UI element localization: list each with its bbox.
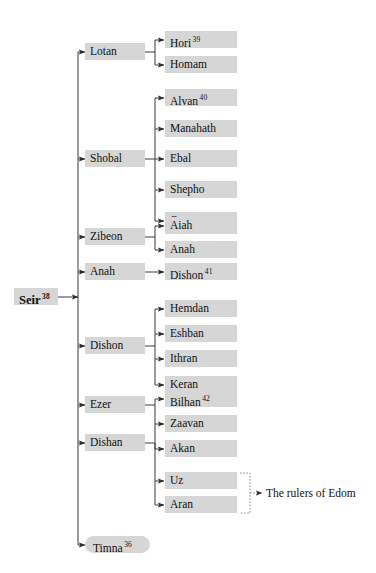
node-ebal[interactable]: Ebal bbox=[165, 150, 237, 167]
node-aran-label: Aran bbox=[170, 498, 193, 510]
node-shepho-label: Shepho bbox=[170, 183, 205, 195]
genealogy-diagram: Seir38 Lotan Shobal Zibeon Anah Dishon E… bbox=[0, 0, 376, 573]
node-zibeon[interactable]: Zibeon bbox=[85, 228, 145, 245]
node-hemdan[interactable]: Hemdan bbox=[165, 300, 237, 317]
node-ezer-label: Ezer bbox=[90, 398, 111, 410]
node-homam-label: Homam bbox=[170, 58, 207, 70]
node-dishan[interactable]: Dishan bbox=[85, 434, 145, 451]
node-akan-label: Akan bbox=[170, 442, 195, 454]
node-seir-label: Seir bbox=[19, 293, 41, 305]
node-dishon[interactable]: Dishon bbox=[85, 337, 145, 354]
node-aiah-label: Aiah bbox=[170, 219, 192, 231]
node-uz[interactable]: Uz bbox=[165, 472, 237, 489]
node-homam[interactable]: Homam bbox=[165, 56, 237, 73]
node-lotan[interactable]: Lotan bbox=[85, 43, 145, 60]
node-manahath-label: Manahath bbox=[170, 122, 216, 134]
node-bilhan[interactable]: Bilhan42 bbox=[165, 390, 237, 407]
annotation-rulers-of-edom: The rulers of Edom bbox=[266, 485, 356, 502]
node-bilhan-superscript: 42 bbox=[202, 394, 210, 403]
node-shepho[interactable]: Shepho bbox=[165, 181, 237, 198]
node-alvan-label: Alvan bbox=[170, 95, 198, 106]
node-timna-superscript: 36 bbox=[124, 540, 132, 549]
node-dishon-child-superscript: 41 bbox=[205, 267, 213, 276]
node-anah[interactable]: Anah bbox=[85, 263, 145, 280]
node-bilhan-label: Bilhan bbox=[170, 396, 201, 407]
node-zibeon-label: Zibeon bbox=[90, 230, 123, 242]
node-keran-label: Keran bbox=[170, 378, 198, 390]
node-hori[interactable]: Hori39 bbox=[165, 31, 237, 48]
node-seir[interactable]: Seir38 bbox=[14, 288, 58, 305]
node-ithran[interactable]: Ithran bbox=[165, 350, 237, 367]
node-alvan-superscript: 40 bbox=[200, 93, 208, 102]
node-anah-child[interactable]: Anah bbox=[165, 241, 237, 258]
node-eshban-label: Eshban bbox=[170, 327, 204, 339]
node-timna-label: Timna bbox=[93, 542, 123, 553]
node-alvan[interactable]: Alvan40 bbox=[165, 89, 237, 106]
node-timna[interactable]: Timna36 bbox=[85, 536, 150, 553]
node-eshban[interactable]: Eshban bbox=[165, 325, 237, 342]
node-zaavan[interactable]: Zaavan bbox=[165, 415, 237, 432]
node-dishon-child-label: Dishon bbox=[170, 269, 203, 280]
node-hori-label: Hori bbox=[170, 37, 191, 48]
node-shobal[interactable]: Shobal bbox=[85, 150, 145, 167]
node-ebal-label: Ebal bbox=[170, 152, 191, 164]
node-zaavan-label: Zaavan bbox=[170, 417, 204, 429]
node-aiah[interactable]: Aiah bbox=[165, 217, 237, 234]
node-ezer[interactable]: Ezer bbox=[85, 396, 145, 413]
node-aran[interactable]: Aran bbox=[165, 496, 237, 513]
node-dishon-label: Dishon bbox=[90, 339, 123, 351]
node-hemdan-label: Hemdan bbox=[170, 302, 209, 314]
node-anah-label: Anah bbox=[90, 265, 115, 277]
node-shobal-label: Shobal bbox=[90, 152, 122, 164]
node-dishon-child[interactable]: Dishon41 bbox=[165, 263, 237, 280]
node-manahath[interactable]: Manahath bbox=[165, 120, 237, 137]
node-anah-child-label: Anah bbox=[170, 243, 195, 255]
node-akan[interactable]: Akan bbox=[165, 440, 237, 457]
node-seir-superscript: 38 bbox=[42, 292, 50, 301]
node-dishan-label: Dishan bbox=[90, 436, 123, 448]
node-hori-superscript: 39 bbox=[193, 35, 201, 44]
node-uz-label: Uz bbox=[170, 474, 183, 486]
node-ithran-label: Ithran bbox=[170, 352, 197, 364]
node-lotan-label: Lotan bbox=[90, 45, 117, 57]
